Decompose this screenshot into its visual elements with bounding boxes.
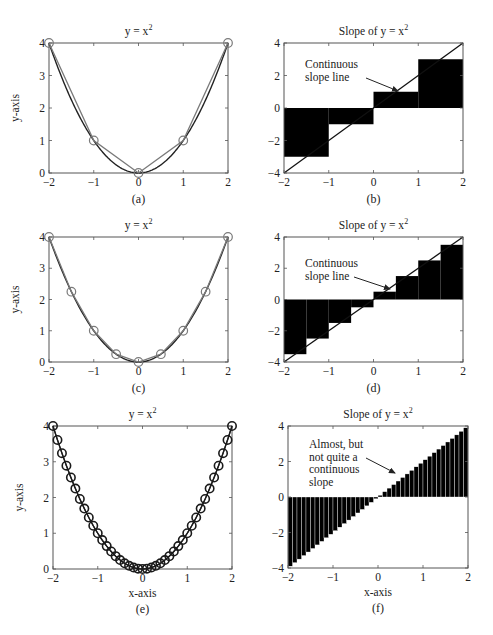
bar <box>369 497 374 502</box>
bar <box>419 463 424 497</box>
bar <box>459 431 464 497</box>
x-tick-label: 1 <box>180 365 186 377</box>
panel-d: −2−1012−4−2024Slope of y = x2(d)Continuo… <box>268 217 466 395</box>
bar <box>351 300 373 308</box>
y-tick-label: 0 <box>43 563 49 575</box>
x-tick-label: −1 <box>323 365 335 377</box>
annotation-text: continuous <box>309 463 360 475</box>
x-tick-label: 2 <box>460 365 466 377</box>
bar <box>306 497 311 552</box>
sampled-polyline <box>53 426 232 569</box>
annotation-text: Continuous <box>305 257 359 269</box>
annotation: Continuousslope line <box>305 257 390 289</box>
y-tick-label: 2 <box>39 102 45 114</box>
panel-caption: (d) <box>367 381 381 395</box>
bar <box>333 497 338 531</box>
bar <box>293 497 298 563</box>
chart-title: y = x2 <box>129 406 157 421</box>
y-axis-label: y-axis <box>9 285 22 314</box>
bar <box>396 276 418 299</box>
x-tick-label: 2 <box>465 571 471 583</box>
y-tick-label: 4 <box>274 37 280 49</box>
bar <box>450 438 455 497</box>
y-axis-label: y-axis <box>13 483 26 512</box>
bar <box>297 497 302 559</box>
bar <box>401 477 406 497</box>
bar <box>392 485 397 497</box>
x-tick-label: 0 <box>371 176 377 188</box>
panel-f: −2−1012−4−2024Slope of y = x2x-axis(f)Al… <box>272 406 471 615</box>
panel-caption: (a) <box>132 192 145 206</box>
y-tick-label: 1 <box>39 135 45 147</box>
bar <box>342 497 347 524</box>
x-tick-label: 1 <box>415 176 421 188</box>
chart-title: y = x2 <box>125 23 153 38</box>
y-tick-label: 0 <box>278 491 284 503</box>
panel-caption: (f) <box>372 601 384 615</box>
bar <box>423 460 428 497</box>
y-tick-label: 0 <box>274 102 280 114</box>
x-tick-label: 2 <box>460 176 466 188</box>
y-tick-label: −2 <box>268 325 280 337</box>
x-axis-label: x-axis <box>364 586 393 598</box>
bar <box>378 495 383 497</box>
x-tick-label: 0 <box>371 365 377 377</box>
y-tick-label: 1 <box>43 527 49 539</box>
y-axis-label: y-axis <box>9 93 22 122</box>
bar <box>302 497 307 556</box>
y-tick-label: 0 <box>39 356 45 368</box>
x-tick-label: 2 <box>225 176 231 188</box>
bar <box>410 470 415 497</box>
y-tick-label: 4 <box>274 231 280 243</box>
y-tick-label: −4 <box>268 356 280 368</box>
y-tick-label: 2 <box>39 294 45 306</box>
bar <box>315 497 320 545</box>
annotation-arrow-icon <box>354 277 390 289</box>
bar <box>374 92 419 108</box>
y-tick-label: −4 <box>272 562 284 574</box>
y-tick-label: 3 <box>43 456 49 468</box>
bar <box>356 497 361 513</box>
annotation-arrow-icon <box>366 458 395 473</box>
y-tick-label: −2 <box>272 527 284 539</box>
bar <box>432 453 437 497</box>
bar <box>405 474 410 497</box>
annotation-text: slope line <box>305 71 349 84</box>
y-tick-label: 2 <box>43 492 49 504</box>
y-tick-label: 3 <box>39 262 45 274</box>
y-tick-label: −4 <box>268 167 280 179</box>
chart-title: Slope of y = x2 <box>339 23 408 38</box>
figure-canvas: −2−101201234y = x2y-axis(a) −2−1012−4−20… <box>0 0 493 635</box>
x-tick-label: 1 <box>420 571 426 583</box>
x-tick-label: −1 <box>323 176 335 188</box>
bar <box>374 292 396 300</box>
panel-a: −2−101201234y = x2y-axis(a) <box>9 23 232 206</box>
bar <box>329 300 351 323</box>
y-tick-label: 4 <box>278 420 284 432</box>
bar <box>320 497 325 541</box>
bar <box>414 467 419 497</box>
x-tick-label: −1 <box>88 176 100 188</box>
x-tick-label: 1 <box>184 572 190 584</box>
bar <box>351 497 356 517</box>
annotation-text: not quite a <box>309 451 358 464</box>
y-tick-label: 2 <box>278 456 284 468</box>
panel-caption: (c) <box>132 381 145 395</box>
x-tick-label: 0 <box>375 571 381 583</box>
bar <box>396 481 401 497</box>
sampled-polyline <box>49 237 228 362</box>
bar <box>383 492 388 497</box>
x-tick-label: 1 <box>180 176 186 188</box>
bar <box>446 442 451 497</box>
x-tick-label: −1 <box>327 571 339 583</box>
x-axis-label: x-axis <box>128 587 157 599</box>
y-tick-label: 0 <box>39 167 45 179</box>
y-tick-label: 3 <box>39 70 45 82</box>
panel-e: −2−101201234y = x2y-axisx-axis(e) <box>13 406 236 616</box>
y-tick-label: 2 <box>274 262 280 274</box>
chart-title: Slope of y = x2 <box>339 217 408 232</box>
annotation-text: Continuous <box>305 58 359 70</box>
bar <box>284 108 329 157</box>
bar <box>428 456 433 497</box>
x-tick-label: −1 <box>88 365 100 377</box>
